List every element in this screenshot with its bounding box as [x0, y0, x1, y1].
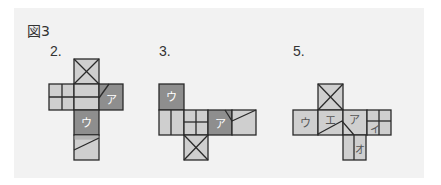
svg-text:オ: オ — [355, 144, 365, 155]
svg-text:ウ: ウ — [81, 117, 92, 130]
net-3: ウ ア — [159, 84, 256, 160]
svg-text:ア: ア — [349, 114, 360, 127]
svg-text:ア: ア — [106, 94, 117, 107]
svg-text:ア: ア — [215, 118, 226, 131]
net-5: ウ エ ア イ オ — [293, 84, 391, 160]
net-2: ア ウ — [49, 59, 123, 160]
cube-nets-diagram: ア ウ ウ ア ウ エ ア イ — [0, 0, 441, 185]
svg-text:イ: イ — [370, 124, 380, 135]
svg-text:ウ: ウ — [300, 117, 311, 130]
svg-text:ウ: ウ — [166, 91, 177, 104]
